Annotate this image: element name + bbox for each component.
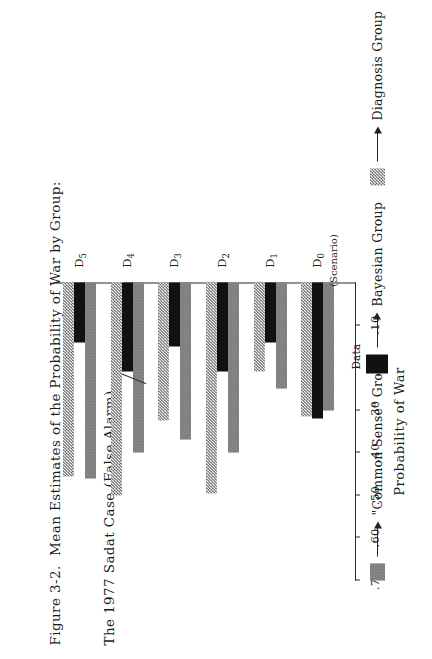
bar-d5-bay	[63, 282, 74, 476]
bar-group-d1	[254, 282, 288, 580]
bar-d3-cs	[180, 282, 191, 440]
bar-d0-cs	[323, 282, 334, 410]
bar-d1-bay	[254, 282, 265, 371]
x-axis-tick	[355, 579, 360, 580]
category-label-d1: D1	[264, 253, 280, 268]
legend-item-common-sense: "Common Sense" Group	[370, 356, 385, 580]
x-axis-tick	[355, 536, 360, 537]
bar-d1-cs	[276, 282, 287, 388]
bar-d2-data	[217, 282, 228, 371]
x-axis-tick	[355, 409, 360, 410]
bar-d5-cs	[85, 282, 96, 478]
bar-group-d5	[63, 282, 97, 580]
bar-d3-bay	[158, 282, 169, 420]
bar-group-d3	[158, 282, 192, 580]
legend-item-data: Bayesian Group	[366, 201, 388, 373]
bar-d4-data	[122, 282, 133, 371]
bar-d4-cs	[133, 282, 144, 452]
legend-label-common-sense: "Common Sense" Group	[370, 356, 385, 515]
legend: "Common Sense" Group Bayesian Group Data…	[368, 20, 398, 580]
bar-d5-data	[74, 282, 85, 342]
swatch-bayesian-icon	[370, 168, 385, 185]
bar-group-d4	[111, 282, 145, 580]
category-label-d5: D5	[73, 253, 89, 268]
x-axis-tick	[355, 494, 360, 495]
swatch-data-icon	[366, 354, 388, 373]
bar-d2-bay	[206, 282, 217, 493]
bar-d1-data	[265, 282, 276, 342]
legend-label-data: Data	[350, 343, 362, 369]
x-axis-line	[355, 282, 356, 580]
bar-d2-cs	[228, 282, 239, 452]
arrow-right-icon	[373, 518, 382, 556]
bar-d3-data	[169, 282, 180, 346]
arrow-right-icon	[373, 123, 382, 161]
category-label-d2: D2	[216, 253, 232, 268]
legend-label-bayesian: Bayesian Group	[370, 201, 385, 306]
swatch-common-sense-icon	[370, 563, 385, 580]
x-axis-tick	[355, 324, 360, 325]
category-label-d3: D3	[168, 253, 184, 268]
bar-d0-data	[312, 282, 323, 418]
arrow-right-icon	[373, 309, 382, 347]
bar-group-d2	[206, 282, 240, 580]
bar-d4-bay	[111, 282, 122, 495]
category-label-d0: D0(Scenario)	[311, 234, 340, 287]
category-label-d4: D4	[121, 253, 137, 268]
figure-page: Figure 3-2. Mean Estimates of the Probab…	[0, 0, 432, 659]
legend-label-diagnosis: Diagnosis Group	[370, 10, 385, 120]
legend-item-diagnosis: Diagnosis Group	[370, 10, 385, 185]
plot-area: .70.60.50.40.30.20.10D0(Scenario)D1D2D3D…	[56, 282, 356, 580]
bar-group-d0	[301, 282, 335, 580]
x-axis-tick	[355, 451, 360, 452]
bar-d0-bay	[301, 282, 312, 416]
